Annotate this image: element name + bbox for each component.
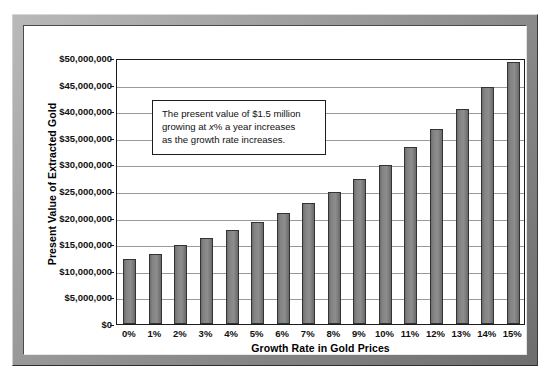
bar (404, 147, 417, 324)
y-axis-tick-mark (110, 245, 114, 246)
y-axis-tick-mark (110, 192, 114, 193)
bar (302, 203, 315, 324)
y-axis-tick-mark (110, 325, 114, 326)
annotation-line-2-pre: growing at (162, 121, 209, 132)
bar (456, 109, 469, 324)
y-axis-tick-label: $35,000,000 (26, 134, 112, 144)
x-axis-tick-label: 15% (495, 328, 529, 340)
y-axis-tick-mark (110, 298, 114, 299)
y-axis-tick-mark (110, 59, 114, 60)
bar (277, 213, 290, 324)
y-axis-tick-mark (110, 272, 114, 273)
annotation-line-1: The present value of $1.5 million (162, 107, 317, 120)
bar (328, 192, 341, 324)
bar (379, 165, 392, 324)
frame-bevel-inner: Present Value of Extracted Gold $0$5,000… (23, 25, 527, 355)
y-axis-ticks: $0$5,000,000$10,000,000$15,000,000$20,00… (24, 59, 112, 325)
bar (430, 129, 443, 324)
plot-area (116, 59, 525, 325)
chart-frame: Present Value of Extracted Gold $0$5,000… (12, 14, 538, 366)
bar (200, 238, 213, 324)
bar (226, 230, 239, 324)
bar (123, 259, 136, 324)
y-axis-tick-mark (110, 139, 114, 140)
y-axis-tick-mark (110, 86, 114, 87)
bar (353, 179, 366, 324)
bar-chart: Present Value of Extracted Gold $0$5,000… (24, 26, 528, 356)
y-axis-tick-label: $5,000,000 (26, 293, 112, 303)
annotation-line-2-post: % a year increases (214, 121, 296, 132)
y-axis-tick-label: $45,000,000 (26, 81, 112, 91)
annotation-callout: The present value of $1.5 million growin… (152, 100, 326, 155)
y-axis-tick-label: $25,000,000 (26, 187, 112, 197)
annotation-line-3: as the growth rate increases. (162, 133, 317, 146)
bar (507, 62, 520, 324)
bar (149, 254, 162, 324)
bar (251, 222, 264, 324)
y-axis-tick-mark (110, 165, 114, 166)
bar (481, 87, 494, 324)
y-axis-tick-label: $30,000,000 (26, 160, 112, 170)
y-axis-tick-label: $20,000,000 (26, 214, 112, 224)
y-axis-tick-mark (110, 219, 114, 220)
x-axis-title: Growth Rate in Gold Prices (116, 342, 525, 354)
y-axis-tick-label: $0 (26, 320, 112, 330)
y-axis-tick-label: $50,000,000 (26, 54, 112, 64)
y-axis-tick-label: $40,000,000 (26, 107, 112, 117)
y-axis-tick-label: $15,000,000 (26, 240, 112, 250)
bar (174, 245, 187, 324)
y-axis-tick-mark (110, 112, 114, 113)
annotation-line-2: growing at x% a year increases (162, 120, 317, 133)
y-axis-tick-label: $10,000,000 (26, 267, 112, 277)
